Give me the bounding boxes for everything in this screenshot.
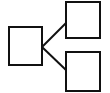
child-bottom-node-box xyxy=(66,52,100,91)
root-node-box xyxy=(9,27,42,65)
tree-diagram xyxy=(0,0,110,93)
edge-root-to-top xyxy=(42,23,66,47)
edge-root-to-bottom xyxy=(42,47,66,70)
child-top-node-box xyxy=(66,2,100,38)
